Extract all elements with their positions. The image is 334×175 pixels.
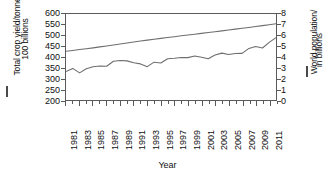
y-axis-left-tick-label: 500 [28,30,60,40]
x-axis-tick-label: 1997 [178,130,188,150]
x-axis-tick-label: 1991 [137,130,147,150]
y-axis-left-tick-label: 600 [28,8,60,18]
x-axis-tick-mark [133,101,134,106]
x-axis-tick-mark [65,101,66,106]
x-axis-tick-label: 1987 [110,130,120,150]
y-axis-right-tick-label: 7 [281,19,297,29]
x-axis-tick-mark [120,101,121,106]
y-axis-right-tick-mark [277,13,281,14]
x-axis-tick-mark [161,101,162,106]
x-axis-tick-mark [181,101,182,104]
line-crop-yield [66,38,276,73]
x-axis-tick-label: 2005 [233,130,243,150]
x-axis-tick-mark [99,101,100,104]
y-axis-right-tick-mark [277,90,281,91]
line-world-population [66,24,276,52]
x-axis-tick-mark [140,101,141,104]
y-axis-right-tick-label: 8 [281,8,297,18]
x-axis-tick-label: 2009 [260,130,270,150]
x-axis-tick-mark [154,101,155,104]
x-axis-tick-mark [270,101,271,106]
x-axis-tick-label: 1999 [192,130,202,150]
x-axis-tick-mark [277,101,278,104]
x-axis-tick-mark [188,101,189,106]
x-axis-tick-label: 2011 [274,131,284,150]
x-axis-tick-mark [127,101,128,104]
x-axis-tick-mark [250,101,251,104]
x-axis-tick-label: 2007 [247,130,257,150]
chart-figure: Total crop yield/tonnes, in 100 billions… [0,0,334,175]
y-axis-right-tick-mark [277,46,281,47]
x-axis-tick-mark [202,101,203,106]
y-axis-left-tick-label: 400 [28,52,60,62]
x-axis-tick-label: 1993 [151,130,161,150]
y-axis-left-tick-label: 450 [28,41,60,51]
x-axis-tick-mark [92,101,93,106]
y-axis-left-tick-label: 250 [28,85,60,95]
x-axis-tick-mark [222,101,223,104]
x-axis-tick-mark [106,101,107,106]
x-axis-title: Year [60,160,275,170]
data-lines [66,14,276,100]
legend-line-marker-right [306,66,308,77]
x-axis-tick-mark [174,101,175,106]
x-axis-tick-mark [86,101,87,104]
y-axis-left-tick-label: 350 [28,63,60,73]
x-axis-tick-mark [209,101,210,104]
plot-area [65,13,277,101]
y-axis-right-tick-mark [277,68,281,69]
y-axis-right-tick-label: 2 [281,74,297,84]
x-axis-tick-label: 1983 [83,130,93,150]
x-axis-tick-mark [236,101,237,104]
y-axis-right-tick-mark [277,35,281,36]
y-axis-right-tick-label: 4 [281,52,297,62]
x-axis-tick-label: 2001 [206,130,216,150]
x-axis-tick-mark [113,101,114,104]
x-axis-tick-mark [72,101,73,104]
x-axis-tick-mark [195,101,196,104]
x-axis-tick-mark [229,101,230,106]
x-axis-tick-mark [243,101,244,106]
y-axis-right-tick-label: 0 [281,96,297,106]
y-axis-right-tick-label: 6 [281,30,297,40]
legend-line-marker-left [6,86,8,97]
y-axis-right-tick-mark [277,57,281,58]
x-axis-tick-mark [168,101,169,104]
x-axis-tick-label: 1989 [124,130,134,150]
y-axis-right-tick-mark [277,24,281,25]
y-axis-right-tick-label: 3 [281,63,297,73]
y-axis-left-tick-label: 550 [28,19,60,29]
x-axis-tick-mark [147,101,148,106]
y-axis-right-tick-label: 1 [281,85,297,95]
x-axis-tick-mark [263,101,264,104]
y-axis-left-tick-label: 200 [28,96,60,106]
x-axis-tick-mark [256,101,257,106]
y-axis-left-tick-label: 300 [28,74,60,84]
x-axis-tick-label: 1985 [96,130,106,150]
y-axis-right-tick-mark [277,79,281,80]
x-axis-tick-label: 1995 [165,130,175,150]
x-axis-tick-mark [79,101,80,106]
y-axis-right-tick-label: 5 [281,41,297,51]
x-axis-tick-label: 1981 [69,130,79,150]
x-axis-tick-label: 2003 [219,130,229,150]
x-axis-tick-mark [215,101,216,106]
y-axis-right-title-line2: in billions [315,11,327,89]
